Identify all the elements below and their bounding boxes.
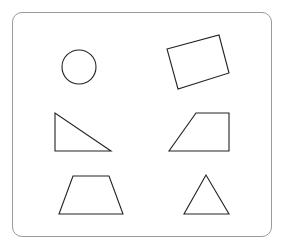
circle-shape xyxy=(62,50,96,84)
isosceles-trapezoid-shape xyxy=(59,176,123,214)
right-trapezoid-shape xyxy=(169,113,229,151)
triangle-shape xyxy=(184,175,229,214)
shapes-canvas xyxy=(0,0,288,248)
right-triangle-shape xyxy=(55,113,111,151)
rotated-rectangle-shape xyxy=(167,35,229,89)
